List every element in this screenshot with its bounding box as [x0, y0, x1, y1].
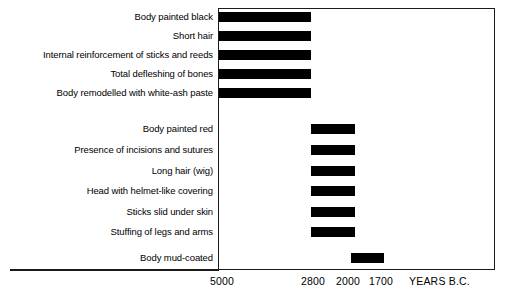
bar [311, 207, 355, 217]
x-axis-tick-label: 5000 [197, 275, 247, 287]
category-label: Sticks slid under skin [0, 206, 213, 217]
bar [219, 31, 311, 41]
bar [219, 88, 311, 98]
category-label-column: Body painted blackShort hairInternal rei… [0, 0, 213, 270]
category-label: Body mud-coated [0, 252, 213, 263]
bar [351, 253, 384, 263]
category-label: Short hair [0, 30, 213, 41]
bar [311, 186, 355, 196]
bar [311, 166, 355, 176]
bar [219, 12, 311, 22]
category-label: Body remodelled with white-ash paste [0, 87, 213, 98]
category-label: Stuffing of legs and arms [0, 226, 213, 237]
bar [311, 145, 355, 155]
bar [219, 69, 311, 79]
category-label: Head with helmet-like covering [0, 185, 213, 196]
category-label: Internal reinforcement of sticks and ree… [0, 49, 213, 60]
timeline-bar-chart: Body painted blackShort hairInternal rei… [0, 0, 508, 303]
category-label: Body painted black [0, 11, 213, 22]
category-label: Body painted red [0, 123, 213, 134]
plot-frame [218, 8, 495, 270]
x-axis-caption: YEARS B.C. [409, 275, 470, 287]
category-label: Presence of incisions and sutures [0, 144, 213, 155]
category-label: Long hair (wig) [0, 165, 213, 176]
category-label: Total defleshing of bones [0, 68, 213, 79]
bar [311, 124, 355, 134]
bar [219, 50, 311, 60]
x-axis-tick-label: 1700 [356, 275, 406, 287]
bar [311, 227, 355, 237]
